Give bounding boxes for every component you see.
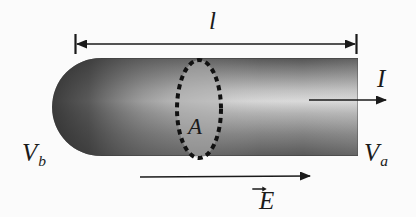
length-dimension [76, 34, 357, 54]
efield-symbol: E [259, 187, 274, 214]
efield-arrow [140, 176, 310, 177]
diagram-canvas [0, 0, 416, 217]
length-label: l [209, 8, 216, 33]
area-label: A [188, 115, 202, 138]
cross-section-area [177, 60, 221, 158]
potential-b-subscript: b [38, 152, 46, 169]
potential-b-label: Vb [22, 140, 45, 165]
potential-b-symbol: V [22, 139, 37, 166]
current-label: I [377, 66, 385, 91]
physics-diagram-cylindrical-conductor: l A Vb Va I E [0, 0, 416, 217]
potential-a-subscript: a [380, 152, 388, 169]
efield-vector-wrapper: E [259, 186, 274, 213]
potential-a-label: Va [364, 140, 387, 165]
cross-section-fill [177, 60, 221, 158]
potential-a-symbol: V [364, 139, 379, 166]
efield-label: E [259, 186, 274, 213]
